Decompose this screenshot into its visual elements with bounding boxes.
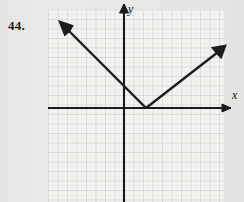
- x-axis-right-arrowhead: [222, 104, 231, 112]
- x-axis-label: x: [231, 88, 238, 102]
- y-axis-label: y: [127, 2, 134, 16]
- grid-area: [48, 10, 224, 202]
- coordinate-graph: x y: [48, 0, 224, 202]
- problem-number-label: 44.: [8, 18, 25, 34]
- worksheet-page: 44.: [0, 0, 244, 202]
